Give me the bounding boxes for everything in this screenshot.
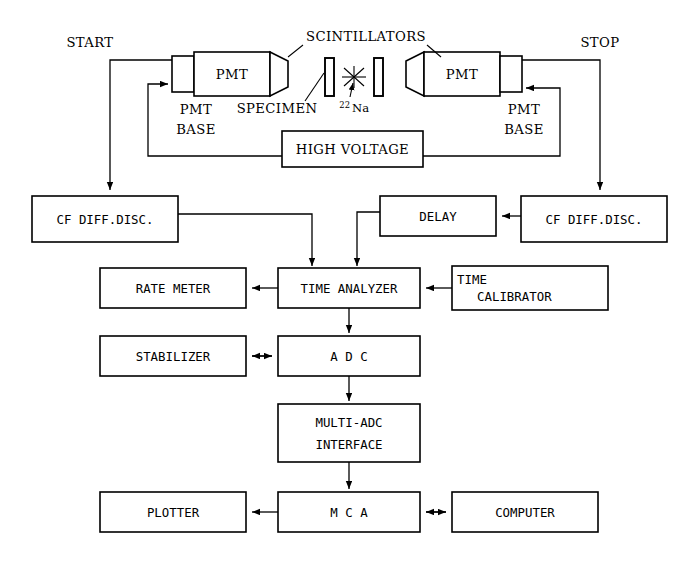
pmt-left-nose bbox=[270, 52, 288, 96]
na22-mass-number: 22 bbox=[339, 100, 350, 110]
delay-label: DELAY bbox=[419, 209, 457, 224]
cf-diff-disc-right-label: CF DIFF.DISC. bbox=[546, 212, 643, 227]
pmt-right-label: PMT bbox=[446, 67, 478, 82]
scintillators-leader-left bbox=[288, 45, 303, 57]
pmt-base-right-label-line2: BASE bbox=[504, 122, 543, 137]
scintillator-bar-left bbox=[325, 58, 334, 96]
pmt-left-base-block bbox=[172, 56, 194, 92]
pmt-right-base-block bbox=[500, 56, 522, 92]
multi-adc-interface-box[interactable] bbox=[278, 404, 420, 462]
pmt-right-nose bbox=[406, 52, 424, 96]
diagram-canvas: PMT PMT 22 Na SCINTILLATORS SPECIMEN PMT… bbox=[0, 0, 694, 566]
plotter-label: PLOTTER bbox=[147, 505, 200, 520]
pmt-base-left-label-line1: PMT bbox=[180, 102, 212, 117]
pmt-base-left-label-line2: BASE bbox=[176, 122, 215, 137]
multi-adc-label-line2: INTERFACE bbox=[315, 437, 382, 452]
delay-to-time-analyzer-line bbox=[357, 212, 380, 266]
mca-label: M C A bbox=[330, 505, 368, 520]
computer-label: COMPUTER bbox=[495, 505, 555, 520]
time-calibrator-label-line1: TIME bbox=[457, 272, 487, 287]
high-voltage-label: HIGH VOLTAGE bbox=[296, 142, 409, 157]
scintillators-label: SCINTILLATORS bbox=[306, 29, 426, 44]
na22-source-starburst-icon bbox=[342, 66, 366, 88]
time-analyzer-label: TIME ANALYZER bbox=[301, 281, 399, 296]
source-pointer-arrow bbox=[350, 83, 353, 97]
time-calibrator-label-line2: CALIBRATOR bbox=[477, 289, 552, 304]
stabilizer-label: STABILIZER bbox=[136, 349, 211, 364]
scintillator-bar-right bbox=[374, 58, 383, 96]
pmt-base-right-label-line1: PMT bbox=[508, 102, 540, 117]
multi-adc-label-line1: MULTI-ADC bbox=[315, 415, 382, 430]
cf-diff-disc-left-label: CF DIFF.DISC. bbox=[57, 212, 154, 227]
specimen-leader-line bbox=[305, 73, 324, 101]
stop-label: STOP bbox=[580, 35, 619, 50]
start-label: START bbox=[66, 35, 113, 50]
specimen-label: SPECIMEN bbox=[237, 101, 318, 116]
adc-label: A D C bbox=[330, 349, 367, 364]
rate-meter-label: RATE METER bbox=[136, 281, 211, 296]
start-signal-line bbox=[110, 60, 172, 190]
na22-element-label: Na bbox=[352, 101, 369, 115]
cfdd-left-to-time-analyzer-line bbox=[178, 214, 312, 266]
block-diagram-svg: PMT PMT 22 Na SCINTILLATORS SPECIMEN PMT… bbox=[0, 0, 694, 566]
pmt-left-label: PMT bbox=[216, 67, 248, 82]
